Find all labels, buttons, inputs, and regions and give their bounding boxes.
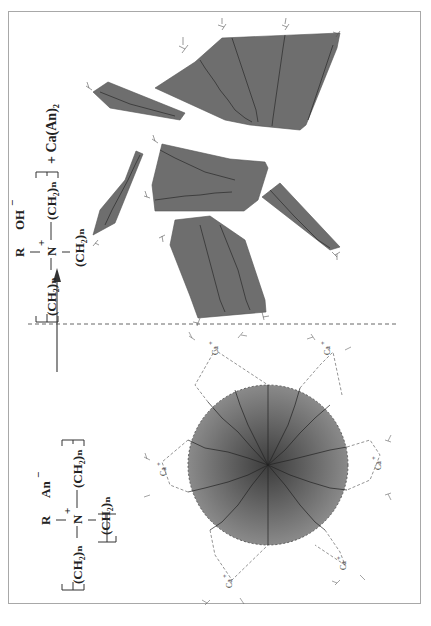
svg-text:An: An (38, 481, 53, 498)
svg-text:Ca: Ca (323, 346, 332, 355)
svg-text:(CH₂)ₙ: (CH₂)ₙ (72, 228, 87, 267)
svg-text:Ca: Ca (159, 467, 168, 476)
svg-text:(CH₂)ₙ: (CH₂)ₙ (98, 496, 113, 535)
svg-text:R: R (38, 515, 53, 525)
svg-text:Ca: Ca (211, 346, 220, 355)
fragment-diagonal (262, 183, 340, 250)
reaction-diagram: Ca + Ca + Ca + Ca + Ca + Ca + (0, 0, 431, 626)
svg-text:(CH₂)ₙ: (CH₂)ₙ (70, 545, 85, 584)
svg-text:OH: OH (12, 210, 27, 230)
svg-text:+: + (35, 240, 47, 246)
svg-text:Ca: Ca (374, 461, 383, 470)
svg-text:−: − (32, 472, 44, 478)
svg-text:R: R (12, 247, 27, 257)
svg-text:+: + (61, 508, 73, 514)
fragment-middle (152, 144, 268, 211)
calcium-ion: Ca + (335, 556, 348, 570)
svg-text:+: + (319, 341, 327, 345)
fragment-lower (170, 216, 266, 318)
svg-text:N: N (70, 514, 85, 524)
formula-after: (CH₂)ₙ N + R OH − (CH₂)ₙ (CH₂)ₙ + Ca(An)… (6, 104, 87, 322)
formula-before: (CH₂)ₙ N + R An − (CH₂)ₙ (CH₂)ₙ (32, 440, 116, 590)
svg-text:N: N (44, 246, 59, 256)
svg-text:+: + (335, 556, 343, 560)
svg-text:+: + (370, 456, 378, 460)
calcium-ion: Ca + (207, 341, 220, 355)
faint-caption-marks (418, 520, 428, 610)
svg-text:Ca: Ca (339, 561, 348, 570)
svg-text:−: − (6, 200, 18, 206)
calcium-ion: Ca + (221, 574, 234, 588)
svg-text:+: + (221, 574, 229, 578)
calcium-ion: Ca + (319, 341, 332, 355)
svg-text:+ Ca(An)₂: + Ca(An)₂ (44, 104, 60, 164)
svg-text:(CH₂)ₙ: (CH₂)ₙ (44, 181, 59, 220)
calcium-ion: Ca + (155, 462, 168, 476)
svg-text:+: + (207, 341, 215, 345)
svg-text:+: + (155, 462, 163, 466)
calcium-ion: Ca + (370, 456, 383, 470)
svg-text:(CH₂)ₙ: (CH₂)ₙ (70, 449, 85, 488)
svg-text:Ca: Ca (225, 579, 234, 588)
svg-text:(CH₂)ₙ: (CH₂)ₙ (44, 277, 59, 316)
